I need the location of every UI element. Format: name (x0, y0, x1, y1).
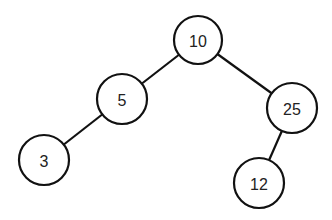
tree-node-25: 25 (267, 83, 317, 133)
tree-node-5: 5 (97, 74, 147, 124)
node-label: 5 (118, 92, 127, 109)
node-label: 10 (189, 33, 207, 50)
node-label: 12 (250, 176, 268, 193)
binary-tree-diagram: 10532512 (0, 0, 332, 220)
node-label: 3 (40, 153, 49, 170)
tree-node-10: 10 (174, 16, 222, 64)
node-label: 25 (283, 101, 301, 118)
tree-node-3: 3 (19, 135, 69, 185)
tree-node-12: 12 (234, 158, 284, 208)
nodes: 10532512 (19, 16, 317, 208)
